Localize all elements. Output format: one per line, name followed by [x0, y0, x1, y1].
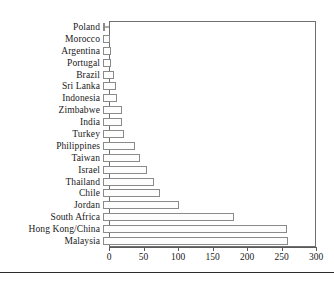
bar-row: Morocco [0, 34, 334, 44]
bar-track [103, 188, 310, 198]
bar-track [103, 58, 310, 68]
bar-track [103, 46, 310, 56]
bar-row: India [0, 117, 334, 127]
footer-rule [0, 272, 334, 273]
bar-israel [103, 166, 147, 174]
bar-track [103, 141, 310, 151]
bar-malaysia [103, 237, 288, 245]
category-label: Thailand [0, 177, 103, 187]
bar-row: Turkey [0, 129, 334, 139]
bar-track [103, 177, 310, 187]
x-tick-label: 200 [240, 252, 254, 263]
bar-chart-figure: Poland Morocco Argentina Portugal [0, 0, 334, 283]
category-label: Jordan [0, 200, 103, 210]
category-label: Indonesia [0, 93, 103, 103]
bar-morocco [103, 35, 110, 43]
bar-zimbabwe [103, 106, 122, 114]
bar-rows: Poland Morocco Argentina Portugal [0, 21, 334, 247]
bar-south-africa [103, 213, 234, 221]
bar-track [103, 117, 310, 127]
x-tick [144, 247, 145, 251]
category-label: Sri Lanka [0, 81, 103, 91]
category-label: Malaysia [0, 236, 103, 246]
bar-indonesia [103, 94, 117, 102]
x-tick [213, 247, 214, 251]
category-label: India [0, 117, 103, 127]
bar-track [103, 22, 310, 32]
category-label: Poland [0, 22, 103, 32]
category-label: Israel [0, 165, 103, 175]
category-label: Brazil [0, 70, 103, 80]
category-label: South Africa [0, 212, 103, 222]
category-label: Chile [0, 188, 103, 198]
bar-row: Sri Lanka [0, 81, 334, 91]
bar-hong-kong-china [103, 225, 287, 233]
bar-row: Thailand [0, 177, 334, 187]
x-tick [109, 247, 110, 251]
bar-brazil [103, 71, 114, 79]
category-label: Argentina [0, 46, 103, 56]
bar-taiwan [103, 154, 140, 162]
x-tick [178, 247, 179, 251]
bar-row: Indonesia [0, 93, 334, 103]
category-label: Portugal [0, 58, 103, 68]
category-label: Turkey [0, 129, 103, 139]
bar-track [103, 129, 310, 139]
bar-track [103, 200, 310, 210]
bar-track [103, 70, 310, 80]
bar-row: Taiwan [0, 153, 334, 163]
bar-track [103, 212, 310, 222]
bar-row: Israel [0, 165, 334, 175]
category-label: Zimbabwe [0, 105, 103, 115]
bar-row: Jordan [0, 200, 334, 210]
bar-row: South Africa [0, 212, 334, 222]
bar-row: Hong Kong/China [0, 224, 334, 234]
bar-thailand [103, 178, 154, 186]
bar-row: Malaysia [0, 236, 334, 246]
bar-track [103, 224, 310, 234]
bar-track [103, 165, 310, 175]
bar-track [103, 34, 310, 44]
bar-portugal [103, 59, 111, 67]
bar-track [103, 81, 310, 91]
bar-poland [103, 23, 105, 31]
bar-turkey [103, 130, 124, 138]
category-label: Philippines [0, 141, 103, 151]
bar-row: Poland [0, 22, 334, 32]
x-tick-label: 50 [139, 252, 149, 263]
x-tick-label: 100 [171, 252, 185, 263]
x-tick [282, 247, 283, 251]
x-tick [247, 247, 248, 251]
category-label: Morocco [0, 34, 103, 44]
x-tick-label: 150 [205, 252, 219, 263]
bar-row: Zimbabwe [0, 105, 334, 115]
bar-track [103, 236, 310, 246]
x-tick [316, 247, 317, 251]
x-tick-label: 300 [309, 252, 323, 263]
bar-row: Philippines [0, 141, 334, 151]
bar-chile [103, 189, 160, 197]
bar-track [103, 153, 310, 163]
category-label: Taiwan [0, 153, 103, 163]
bar-row: Argentina [0, 46, 334, 56]
bar-india [103, 118, 122, 126]
bar-track [103, 105, 310, 115]
bar-row: Chile [0, 188, 334, 198]
bar-philippines [103, 142, 135, 150]
bar-jordan [103, 201, 179, 209]
bar-track [103, 93, 310, 103]
x-tick-label: 0 [107, 252, 112, 263]
category-label: Hong Kong/China [0, 224, 103, 234]
x-tick-label: 250 [274, 252, 288, 263]
bar-row: Brazil [0, 70, 334, 80]
bar-argentina [103, 47, 111, 55]
bar-row: Portugal [0, 58, 334, 68]
bar-sri-lanka [103, 82, 116, 90]
